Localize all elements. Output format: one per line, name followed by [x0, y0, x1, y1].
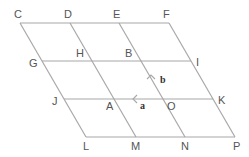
vector-b-label: b [160, 74, 166, 85]
line-c-l [20, 23, 86, 137]
label-c: C [14, 8, 22, 20]
label-m: M [131, 140, 140, 152]
vector-a-label: a [140, 100, 145, 111]
label-d: D [64, 8, 72, 20]
line-f-p [169, 23, 235, 137]
label-b: B [125, 47, 132, 59]
label-n: N [181, 140, 189, 152]
label-f: F [163, 8, 170, 20]
parallelogram-grid-diagram: C D E F G H B I J A O K L M N P a b [0, 0, 249, 157]
label-e: E [113, 8, 120, 20]
label-p: P [233, 140, 240, 152]
label-g: G [29, 57, 38, 69]
label-o: O [167, 100, 176, 112]
label-a: A [106, 100, 114, 112]
line-d-m [70, 23, 136, 137]
label-i: I [196, 56, 199, 68]
label-h: H [76, 47, 84, 59]
label-j: J [52, 95, 58, 107]
line-e-n [119, 23, 185, 137]
label-k: K [218, 94, 226, 106]
label-l: L [83, 140, 89, 152]
